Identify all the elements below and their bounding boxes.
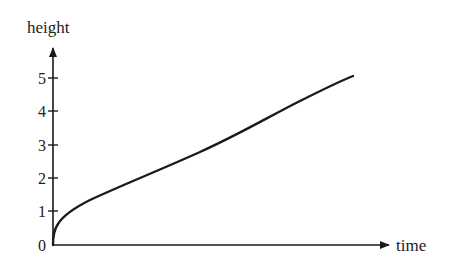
y-tick-label-3: 3 xyxy=(38,137,46,154)
y-tick-label-2: 2 xyxy=(38,170,46,187)
y-tick-label-1: 1 xyxy=(38,203,46,220)
y-axis-label: height xyxy=(27,18,70,37)
data-curve xyxy=(53,76,353,245)
chart: 0 1 2 3 4 5 height time xyxy=(0,0,456,271)
y-tick-labels: 0 1 2 3 4 5 xyxy=(38,70,46,254)
x-axis-label: time xyxy=(396,236,426,255)
y-tick-label-4: 4 xyxy=(38,103,46,120)
y-tick-label-5: 5 xyxy=(38,70,46,87)
y-tick-label-0: 0 xyxy=(38,237,46,254)
